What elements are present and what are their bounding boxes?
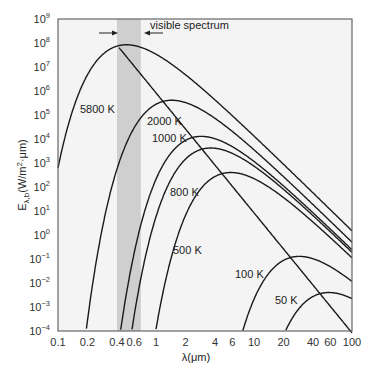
x-tick-label: 0.4 xyxy=(109,336,124,348)
y-tick-label: 106 xyxy=(34,83,50,97)
label-50k: 50 K xyxy=(275,294,298,306)
y-tick-label: 107 xyxy=(34,59,50,73)
x-tick-label: 0.2 xyxy=(80,336,95,348)
x-tick-label: 10 xyxy=(248,336,260,348)
label-800k: 800 K xyxy=(170,186,199,198)
label-100k: 100 K xyxy=(235,268,264,280)
y-tick-label: 105 xyxy=(34,107,50,121)
label-5800k: 5800 K xyxy=(80,103,116,115)
label-2000k: 2000 K xyxy=(147,115,183,127)
x-tick-label: 1 xyxy=(153,336,159,348)
y-tick-label: 102 xyxy=(34,179,50,193)
y-tick-label: 101 xyxy=(34,203,50,217)
blackbody-chart: 10910810710610510410310210110010−110−210… xyxy=(0,0,373,370)
x-axis-ticks: 0.10.20.40.6124610204060100 xyxy=(50,336,361,348)
label-1000k: 1000 K xyxy=(152,132,188,144)
y-tick-label: 108 xyxy=(34,35,50,49)
plot-background xyxy=(58,19,352,331)
y-tick-label: 10−3 xyxy=(29,299,50,313)
x-tick-label: 60 xyxy=(324,336,336,348)
x-tick-label: 0.6 xyxy=(127,336,142,348)
x-tick-label: 20 xyxy=(277,336,289,348)
x-tick-label: 100 xyxy=(343,336,361,348)
y-tick-label: 100 xyxy=(34,227,50,241)
x-tick-label: 0.1 xyxy=(50,336,65,348)
x-axis-label: λ(μm) xyxy=(182,351,210,363)
y-axis-label: Eλ,b(W/m2·μm) xyxy=(15,139,31,211)
y-tick-label: 104 xyxy=(34,131,50,145)
label-500k: 500 K xyxy=(173,244,202,256)
y-tick-label: 10−4 xyxy=(29,323,50,337)
x-tick-label: 2 xyxy=(182,336,188,348)
y-tick-label: 10−1 xyxy=(29,251,50,265)
y-tick-label: 103 xyxy=(34,155,50,169)
visible-spectrum-band xyxy=(117,19,141,331)
x-tick-label: 40 xyxy=(307,336,319,348)
visible-spectrum-label: visible spectrum xyxy=(150,19,229,31)
x-tick-label: 6 xyxy=(229,336,235,348)
y-tick-label: 109 xyxy=(34,11,50,25)
y-tick-label: 10−2 xyxy=(29,275,50,289)
y-axis-ticks: 10910810710610510410310210110010−110−210… xyxy=(29,11,50,337)
x-tick-label: 4 xyxy=(212,336,218,348)
